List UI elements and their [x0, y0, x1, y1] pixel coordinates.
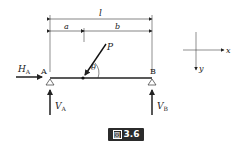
length-a-label: a: [64, 22, 69, 31]
support-b-label: B: [150, 67, 156, 76]
figure-icon: 図: [113, 130, 122, 139]
length-l-label: l: [99, 8, 102, 18]
angle-theta-label: θ: [91, 63, 96, 72]
reaction-vb-label: VB: [157, 101, 169, 112]
reaction-ha-label: HA: [17, 64, 31, 75]
support-a-label: A: [40, 67, 47, 76]
reaction-va-label: VA: [55, 101, 67, 112]
figure-caption: 図3.6: [108, 128, 144, 141]
load-point: [81, 76, 84, 79]
axis-y-label: y: [198, 64, 204, 73]
length-b-label: b: [115, 22, 120, 31]
axis-x-label: x: [226, 46, 231, 55]
support-b-roller-icon: [148, 79, 156, 85]
load-p-label: P: [106, 42, 114, 52]
figure-number: 3.6: [124, 129, 140, 139]
support-a-pin-icon: [46, 79, 54, 85]
